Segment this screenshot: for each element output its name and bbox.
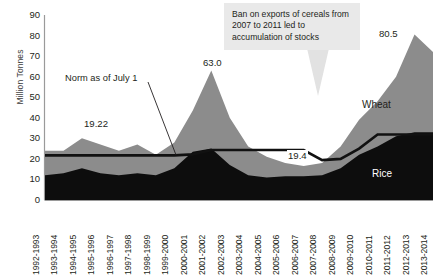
x-tick-label: 2001-2002 <box>197 235 207 275</box>
data-label-19-22: 19.22 <box>84 118 108 129</box>
data-label-63-0: 63.0 <box>203 57 222 68</box>
x-tick-label: 2003-2004 <box>234 235 244 275</box>
x-tick-label: 1995-1996 <box>86 235 96 275</box>
x-tick-label: 1994-1995 <box>68 235 78 275</box>
x-axis-ticks: 1992-19931993-19941994-19951995-19961996… <box>0 0 434 279</box>
x-tick-label: 2006-2007 <box>290 235 300 275</box>
x-tick-label: 2008-2009 <box>327 235 337 275</box>
callout-box: Ban on exports of cereals from 2007 to 2… <box>224 3 360 50</box>
x-tick-label: 1993-1994 <box>49 235 59 275</box>
x-tick-label: 1998-1999 <box>142 235 152 275</box>
x-tick-label: 1999-2000 <box>160 235 170 275</box>
data-label-19-4: 19.4 <box>287 150 308 161</box>
x-tick-label: 2005-2006 <box>271 235 281 275</box>
x-tick-label: 2000-2001 <box>179 235 189 275</box>
x-tick-label: 2007-2008 <box>308 235 318 275</box>
stocks-area-chart: Million Tonnes 0102030405060708090 1992-… <box>0 0 434 279</box>
x-tick-label: 2009-2010 <box>345 235 355 275</box>
x-tick-label: 1997-1998 <box>123 235 133 275</box>
x-tick-label: 2004-2005 <box>253 235 263 275</box>
x-tick-label: 1996-1997 <box>105 235 115 275</box>
x-tick-label: 2011-2012 <box>382 235 392 275</box>
x-tick-label: 2013-2014 <box>419 235 429 275</box>
x-tick-label: 2012-2013 <box>401 235 411 275</box>
data-label-80-5: 80.5 <box>379 28 398 39</box>
series-label-wheat: Wheat <box>362 99 391 110</box>
x-tick-label: 2002-2003 <box>216 235 226 275</box>
x-tick-label: 1992-1993 <box>31 235 41 275</box>
x-tick-label: 2010-2011 <box>364 235 374 275</box>
series-label-rice: Rice <box>372 168 392 179</box>
norm-line-label: Norm as of July 1 <box>65 73 137 83</box>
